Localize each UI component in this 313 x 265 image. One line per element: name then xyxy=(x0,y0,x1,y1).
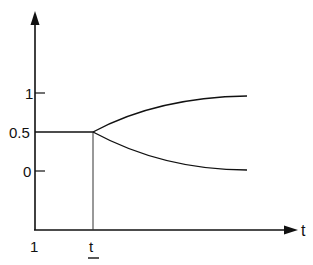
x-axis-arrow-icon xyxy=(284,226,298,235)
x-tick-label-t: t xyxy=(89,238,94,255)
lower-branch-curve xyxy=(93,132,247,170)
y-tick-label-05: 0.5 xyxy=(9,124,30,141)
x-tick-label-1: 1 xyxy=(30,238,38,255)
y-tick-label-1: 1 xyxy=(25,85,33,102)
y-axis-arrow-icon xyxy=(31,11,40,25)
x-axis-label: t xyxy=(301,222,306,239)
y-tick-label-0: 0 xyxy=(23,163,31,180)
bifurcation-diagram: 1 0.5 0 1 t t xyxy=(0,0,313,265)
upper-branch-curve xyxy=(93,96,247,132)
